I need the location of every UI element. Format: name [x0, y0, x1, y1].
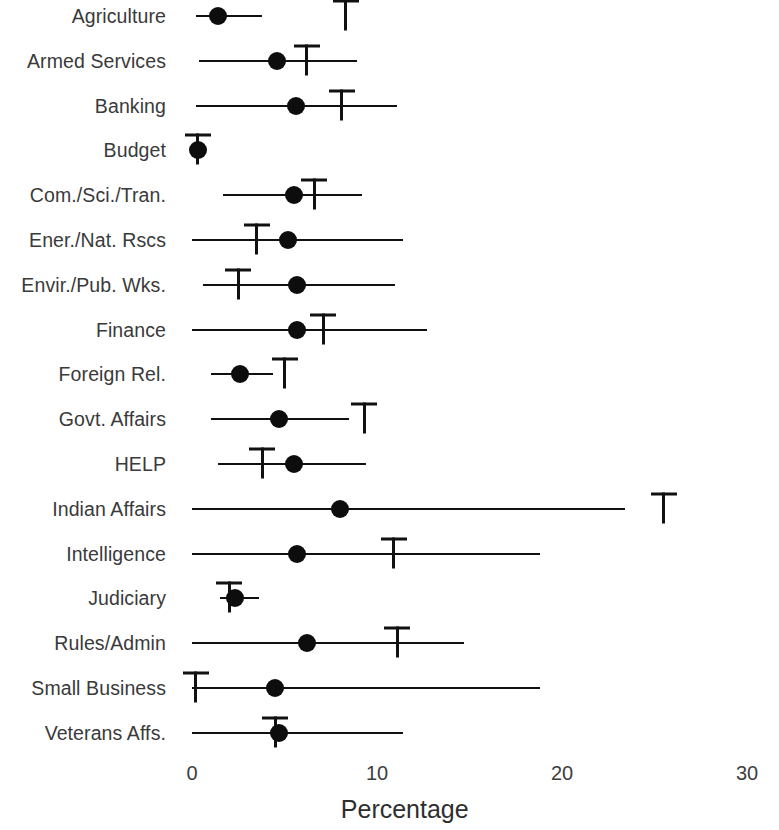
interval-line — [192, 687, 540, 689]
category-label: Envir./Pub. Wks. — [21, 273, 166, 296]
point-estimate-dot — [285, 455, 303, 473]
category-label: Govt. Affairs — [59, 408, 166, 431]
category-label: Intelligence — [66, 542, 166, 565]
category-label: HELP — [115, 453, 166, 476]
category-label: Indian Affairs — [52, 497, 166, 520]
tee-stem — [662, 492, 665, 523]
category-label: Armed Services — [27, 49, 166, 72]
category-label: Banking — [95, 94, 166, 117]
point-estimate-dot — [331, 500, 349, 518]
point-estimate-dot — [270, 410, 288, 428]
reference-tee-marker — [301, 179, 327, 210]
tee-stem — [340, 89, 343, 120]
point-estimate-dot — [209, 7, 227, 25]
interval-line — [192, 642, 464, 644]
point-estimate-dot — [288, 545, 306, 563]
category-label: Rules/Admin — [54, 632, 166, 655]
x-tick-label: 30 — [736, 762, 758, 785]
reference-tee-marker — [333, 0, 359, 31]
x-tick-label: 0 — [186, 762, 197, 785]
tee-stem — [322, 313, 325, 344]
point-estimate-dot — [231, 365, 249, 383]
reference-tee-marker — [249, 448, 275, 479]
dot-interval-chart: AgricultureArmed ServicesBankingBudgetCo… — [0, 0, 779, 830]
reference-tee-marker — [351, 403, 377, 434]
category-label: Veterans Affs. — [45, 721, 166, 744]
tee-stem — [392, 537, 395, 568]
reference-tee-marker — [183, 672, 209, 703]
point-estimate-dot — [270, 724, 288, 742]
category-label: Judiciary — [88, 587, 166, 610]
tee-stem — [305, 44, 308, 75]
x-tick-label: 20 — [551, 762, 573, 785]
point-estimate-dot — [287, 97, 305, 115]
tee-stem — [313, 179, 316, 210]
point-estimate-dot — [285, 186, 303, 204]
category-label: Com./Sci./Tran. — [30, 184, 166, 207]
reference-tee-marker — [272, 358, 298, 389]
tee-stem — [255, 224, 258, 255]
interval-line — [192, 239, 403, 241]
interval-line — [192, 553, 540, 555]
point-estimate-dot — [266, 679, 284, 697]
tee-stem — [237, 268, 240, 299]
tee-stem — [396, 627, 399, 658]
reference-tee-marker — [381, 537, 407, 568]
x-axis-title: Percentage — [341, 795, 469, 824]
point-estimate-dot — [279, 231, 297, 249]
reference-tee-marker — [244, 224, 270, 255]
reference-tee-marker — [651, 492, 677, 523]
interval-line — [192, 732, 403, 734]
reference-tee-marker — [329, 89, 355, 120]
category-label: Budget — [104, 139, 166, 162]
point-estimate-dot — [298, 634, 316, 652]
tee-stem — [261, 448, 264, 479]
category-label: Foreign Rel. — [59, 363, 166, 386]
interval-line — [196, 15, 263, 17]
category-label: Finance — [96, 318, 166, 341]
tee-stem — [283, 358, 286, 389]
point-estimate-dot — [268, 52, 286, 70]
point-estimate-dot — [189, 141, 207, 159]
point-estimate-dot — [226, 589, 244, 607]
tee-stem — [194, 672, 197, 703]
point-estimate-dot — [288, 321, 306, 339]
reference-tee-marker — [294, 44, 320, 75]
x-tick-label: 10 — [366, 762, 388, 785]
tee-stem — [363, 403, 366, 434]
reference-tee-marker — [384, 627, 410, 658]
reference-tee-marker — [225, 268, 251, 299]
category-label: Ener./Nat. Rscs — [29, 229, 166, 252]
reference-tee-marker — [310, 313, 336, 344]
tee-stem — [344, 0, 347, 31]
category-label: Small Business — [31, 677, 166, 700]
category-label: Agriculture — [72, 5, 166, 28]
interval-line — [192, 508, 625, 510]
point-estimate-dot — [288, 276, 306, 294]
